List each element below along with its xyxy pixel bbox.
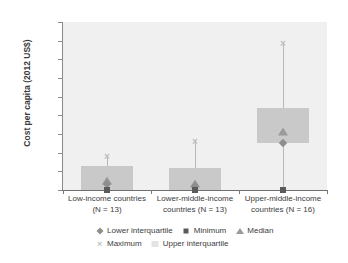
- x-axis-category-label-line: Lower-middle-income: [151, 194, 239, 205]
- y-axis-tick-mark: [58, 59, 62, 60]
- y-axis-line: [62, 22, 63, 191]
- y-axis-tick-mark: [58, 171, 62, 172]
- x-axis-category-label: Upper-middle-incomecountries (N = 16): [239, 194, 327, 215]
- legend-item-label: Median: [247, 226, 273, 235]
- y-axis-tick-mark: [58, 78, 62, 79]
- legend-item[interactable]: Upper interquartile: [151, 239, 229, 248]
- y-axis-tick-mark: [58, 134, 62, 135]
- y-axis-title: Cost per capita (2012 US$): [22, 18, 32, 168]
- median-marker: [278, 128, 288, 136]
- x-axis-category-label-line: (N = 13): [63, 205, 151, 216]
- maximum-marker: ×: [103, 152, 112, 161]
- triangle-icon: [235, 226, 244, 235]
- y-axis-tick-mark: [58, 22, 62, 23]
- legend-item[interactable]: ×Maximum: [95, 239, 142, 248]
- legend-row: Lower interquartileMinimumMedian: [95, 224, 330, 237]
- legend-item-label: Lower interquartile: [107, 226, 173, 235]
- legend-item-label: Maximum: [107, 239, 142, 248]
- x-axis-category-label: Low-income countries(N = 13): [63, 194, 151, 215]
- x-axis-category-label-line: countries (N = 16): [239, 205, 327, 216]
- square-icon: [182, 226, 191, 235]
- minimum-marker: [104, 187, 110, 193]
- legend-row: ×MaximumUpper interquartile: [95, 237, 330, 250]
- legend-item[interactable]: Median: [235, 226, 273, 235]
- y-axis-tick-mark: [58, 190, 62, 191]
- diamond-icon: [95, 226, 104, 235]
- chart-figure: Cost per capita (2012 US$) 0.900.800.700…: [0, 0, 348, 263]
- legend-item-label: Minimum: [194, 226, 226, 235]
- maximum-marker: ×: [279, 38, 288, 47]
- x-axis-category-label-line: Low-income countries: [63, 194, 151, 205]
- minimum-marker: [280, 187, 286, 193]
- x-axis-category-label: Lower-middle-incomecountries (N = 13): [151, 194, 239, 215]
- legend-item[interactable]: Minimum: [182, 226, 226, 235]
- maximum-marker: ×: [191, 137, 200, 146]
- cross-icon: ×: [95, 239, 104, 248]
- bar-icon: [151, 239, 160, 248]
- legend-item-label: Upper interquartile: [163, 239, 229, 248]
- y-axis-tick-mark: [58, 115, 62, 116]
- y-axis-tick-mark: [58, 153, 62, 154]
- x-axis-tick-mark: [327, 190, 328, 194]
- x-axis-category-label-line: Upper-middle-income: [239, 194, 327, 205]
- y-axis-tick-mark: [58, 97, 62, 98]
- legend-item[interactable]: Lower interquartile: [95, 226, 173, 235]
- minimum-marker: [192, 187, 198, 193]
- chart-legend: Lower interquartileMinimumMedian×Maximum…: [95, 224, 330, 250]
- y-axis-tick-mark: [58, 41, 62, 42]
- x-axis-category-label-line: countries (N = 13): [151, 205, 239, 216]
